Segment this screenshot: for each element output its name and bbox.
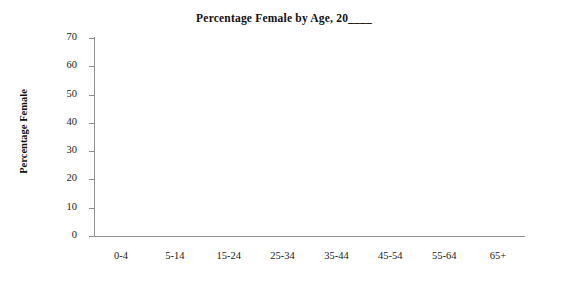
y-tick-label: 10 xyxy=(67,201,78,212)
y-tick-mark xyxy=(89,95,94,96)
y-tick-label: 30 xyxy=(67,144,78,155)
y-tick-label: 40 xyxy=(67,116,78,127)
x-tick-label: 35-44 xyxy=(306,250,366,261)
y-axis-title: Percentage Female xyxy=(18,72,29,192)
y-tick-mark xyxy=(89,236,94,237)
y-tick-label: 70 xyxy=(67,31,78,42)
x-tick-label: 55-64 xyxy=(414,250,474,261)
x-tick-label: 25-34 xyxy=(253,250,313,261)
y-tick-mark xyxy=(89,123,94,124)
x-tick-label: 5-14 xyxy=(145,250,205,261)
plot-area xyxy=(94,38,525,236)
y-tick-mark xyxy=(89,208,94,209)
x-tick-label: 65+ xyxy=(468,250,528,261)
chart-title: Percentage Female by Age, 20____ xyxy=(0,12,568,24)
y-tick-mark xyxy=(89,151,94,152)
x-tick-label: 0-4 xyxy=(91,250,151,261)
x-tick-label: 45-54 xyxy=(360,250,420,261)
y-tick-mark xyxy=(89,179,94,180)
x-tick-label: 15-24 xyxy=(199,250,259,261)
y-tick-mark xyxy=(89,38,94,39)
y-tick-label: 60 xyxy=(67,59,78,70)
chart-figure: Percentage Female by Age, 20____ Percent… xyxy=(0,0,568,283)
x-axis-line xyxy=(94,236,525,237)
y-tick-label: 50 xyxy=(67,88,78,99)
y-tick-label: 0 xyxy=(72,229,77,240)
y-axis-line xyxy=(94,37,95,237)
y-tick-label: 20 xyxy=(67,172,78,183)
y-tick-mark xyxy=(89,66,94,67)
